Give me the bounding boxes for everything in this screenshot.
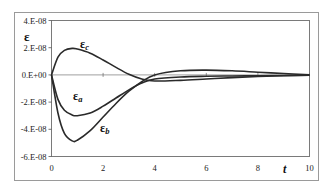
x-tick-label: 4 bbox=[153, 163, 158, 173]
x-tick-label: 0 bbox=[49, 163, 53, 173]
y-axis-title: ε bbox=[24, 29, 30, 44]
y-tick-label: 2.E-08 bbox=[24, 43, 47, 53]
x-tick-label: 6 bbox=[204, 163, 208, 173]
y-tick-label: -4.E-08 bbox=[21, 124, 47, 134]
y-tick-label: -2.E-08 bbox=[21, 97, 47, 107]
line-chart: 4.E-082.E-080.E+00-2.E-08-4.E-08-6.E-08 … bbox=[0, 0, 325, 186]
y-tick-label: -6.E-08 bbox=[21, 152, 47, 162]
plot-area bbox=[52, 21, 310, 157]
x-tick-label: 2 bbox=[101, 163, 105, 173]
y-tick-label: 0.E+00 bbox=[22, 70, 47, 80]
y-tick-label: 4.E-08 bbox=[24, 16, 47, 26]
x-tick-label: 10 bbox=[305, 163, 314, 173]
x-tick-label: 8 bbox=[256, 163, 260, 173]
